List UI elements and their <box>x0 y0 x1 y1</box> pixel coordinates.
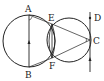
label-f: F <box>49 61 55 71</box>
label-d: D <box>94 13 101 23</box>
angle-mark-a <box>29 17 32 20</box>
point-d-dot <box>89 17 91 19</box>
label-e: E <box>48 13 55 23</box>
geometry-diagram: A B C D E F <box>0 0 104 81</box>
label-a: A <box>24 4 32 14</box>
segment-ec <box>52 24 90 40</box>
arrow-up-icon <box>28 40 31 44</box>
label-b: B <box>25 70 32 80</box>
arrow-up-icon-c <box>89 57 92 61</box>
label-c: C <box>93 36 100 46</box>
angle-mark-c <box>86 38 87 42</box>
